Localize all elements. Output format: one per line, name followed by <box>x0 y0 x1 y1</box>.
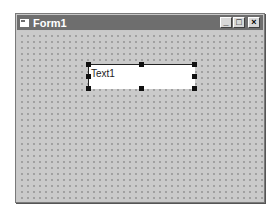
minimize-button[interactable]: _ <box>220 17 232 28</box>
resize-handle-e[interactable] <box>192 74 197 79</box>
resize-handle-se[interactable] <box>192 86 197 91</box>
textbox-text: Text1 <box>91 68 115 79</box>
resize-handle-ne[interactable] <box>192 62 197 67</box>
resize-handle-n[interactable] <box>139 62 144 67</box>
form-window: Form1 _ □ × Text1 <box>15 13 265 203</box>
close-button[interactable]: × <box>248 17 260 28</box>
resize-handle-nw[interactable] <box>86 62 91 67</box>
title-bar[interactable]: Form1 _ □ × <box>17 15 263 30</box>
maximize-button[interactable]: □ <box>233 17 245 28</box>
resize-handle-sw[interactable] <box>86 86 91 91</box>
window-controls: _ □ × <box>219 17 260 28</box>
resize-handle-w[interactable] <box>86 74 91 79</box>
form-design-surface[interactable]: Text1 <box>17 31 263 201</box>
resize-handle-s[interactable] <box>139 86 144 91</box>
form-icon <box>20 19 29 27</box>
window-title: Form1 <box>33 17 67 29</box>
